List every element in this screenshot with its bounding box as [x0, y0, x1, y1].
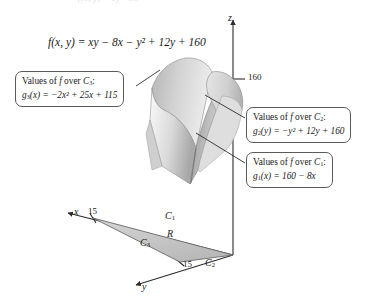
curve-label-c3: C3: [140, 237, 150, 248]
main-equation: f(x, y) = xy − 8x − y² + 12y + 160: [48, 36, 206, 48]
curve-label-c1: C1: [165, 210, 175, 221]
curve-label-c2: C2: [205, 257, 215, 268]
callout-c3-title-prefix: Values of: [22, 76, 57, 86]
callout-c3-formula-body: −2x² + 25x + 115: [51, 90, 117, 100]
callout-c1-formula: g1(x) = 160 − 8x: [253, 170, 326, 183]
callout-c2-title-colon: :: [323, 112, 326, 122]
y-axis-label: y: [142, 281, 146, 292]
region-label-R: R: [167, 228, 173, 239]
z-axis-tick-160: 160: [248, 72, 262, 82]
callout-c2-title: Values of f over C2:: [253, 111, 344, 124]
main-equation-rhs: xy − 8x − y² + 12y + 160: [88, 36, 206, 48]
callout-c3-title-var: f: [59, 76, 62, 86]
x-axis-label: x: [74, 206, 78, 217]
callout-c1-title-prefix: Values of: [253, 157, 288, 167]
callout-values-over-c2: Values of f over C2: g2(y) = −y² + 12y +…: [246, 107, 351, 143]
curve-label-c3-sub: 3: [147, 241, 150, 248]
surface-diagram-figure: f(x, y) = xy - 8x: [0, 0, 380, 299]
callout-values-over-c1: Values of f over C1: g1(x) = 160 − 8x: [246, 152, 333, 188]
callout-c2-title-var: f: [290, 112, 293, 122]
callout-c2-title-mid: over: [295, 112, 312, 122]
callout-c1-formula-body: 160 − 8x: [282, 171, 316, 181]
z-axis-label: z: [228, 12, 232, 23]
callout-c2-formula: g2(y) = −y² + 12y + 160: [253, 125, 344, 138]
x-axis-tick-15: 15: [88, 206, 97, 216]
main-equation-lhs: f(x, y) =: [48, 36, 85, 48]
callout-c2-formula-arg: (y) =: [261, 126, 280, 136]
curve-label-c1-letter: C: [165, 210, 172, 221]
callout-c1-title: Values of f over C1:: [253, 156, 326, 169]
y-axis-tick-15: 15: [183, 259, 192, 269]
callout-c3-title-colon: :: [92, 76, 95, 86]
callout-c3-title-mid: over: [64, 76, 81, 86]
surface-plot: [146, 58, 243, 184]
callout-c3-title: Values of f over C3:: [22, 75, 117, 88]
curve-label-c1-sub: 1: [172, 214, 175, 221]
curve-label-c2-letter: C: [205, 257, 212, 268]
callout-c2-title-prefix: Values of: [253, 112, 288, 122]
callout-c1-title-colon: :: [323, 157, 326, 167]
callout-values-over-c3: Values of f over C3: g3(x) = −2x² + 25x …: [15, 71, 124, 107]
callout-c2-formula-body: −y² + 12y + 160: [282, 126, 344, 136]
callout-c1-title-var: f: [290, 157, 293, 167]
curve-label-c3-letter: C: [140, 237, 147, 248]
callout-c3-formula: g3(x) = −2x² + 25x + 115: [22, 89, 117, 102]
callout-c1-formula-arg: (x) =: [261, 171, 280, 181]
curve-label-c2-sub: 2: [212, 261, 215, 268]
region-R: [93, 218, 233, 262]
callout-c1-title-mid: over: [295, 157, 312, 167]
callout-c3-formula-arg: (x) =: [30, 90, 49, 100]
